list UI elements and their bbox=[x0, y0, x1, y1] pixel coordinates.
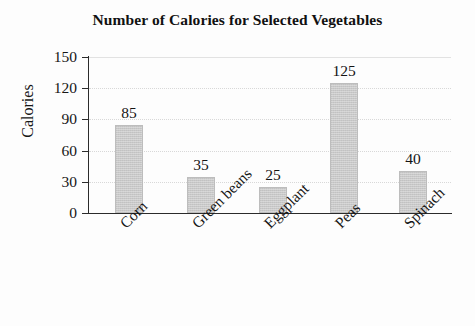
y-tick-label-150: 150 bbox=[43, 49, 77, 65]
y-tick-label-120: 120 bbox=[43, 80, 77, 96]
gridline-120 bbox=[89, 88, 451, 89]
bar-value-peas: 125 bbox=[314, 63, 374, 79]
chart-title: Number of Calories for Selected Vegetabl… bbox=[0, 11, 475, 29]
bar-value-corn: 85 bbox=[99, 105, 159, 121]
bar-peas bbox=[330, 83, 358, 213]
gridline-150 bbox=[89, 57, 451, 58]
y-tick-label-60: 60 bbox=[43, 143, 77, 159]
bar-value-spinach: 40 bbox=[383, 151, 443, 167]
plot-area bbox=[89, 57, 451, 213]
bar-value-green-beans: 35 bbox=[171, 157, 231, 173]
chart-figure: Number of Calories for Selected Vegetabl… bbox=[0, 0, 475, 326]
y-tick-label-30: 30 bbox=[43, 174, 77, 190]
y-tick-label-0: 0 bbox=[43, 205, 77, 221]
y-axis-title: Calories bbox=[19, 66, 37, 156]
y-tick-label-90: 90 bbox=[43, 111, 77, 127]
